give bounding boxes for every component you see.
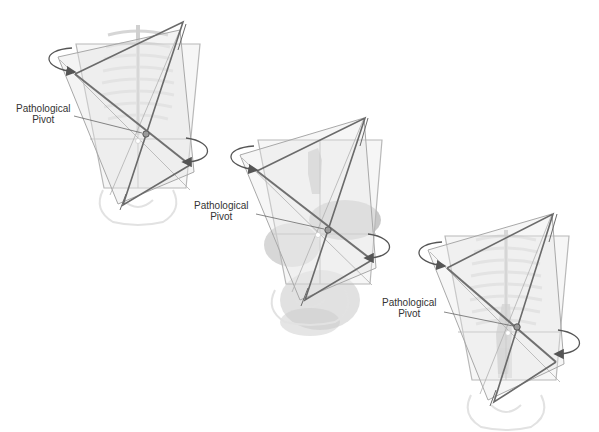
pivot-label-line1: Pathological [382,297,436,308]
pivot-point [325,227,331,233]
figure-3 [419,214,580,430]
pivot-label-line2: Pivot [382,308,436,319]
pivot-point [514,324,520,330]
pivot-label-line2: Pivot [16,114,70,125]
pivot-label-2: Pathological Pivot [194,200,248,222]
pivot-label-line1: Pathological [194,200,248,211]
pivot-label-3: Pathological Pivot [382,297,436,319]
pelvis-anatomy [468,395,545,430]
pivot-origin [315,232,320,237]
pivot-point [143,131,149,137]
pivot-label-line1: Pathological [16,103,70,114]
figure-1 [49,22,208,225]
figure-2 [231,118,390,336]
pivot-origin [136,139,141,144]
pivot-label-1: Pathological Pivot [16,103,70,125]
pivot-label-line2: Pivot [194,211,248,222]
pivot-diagram [0,0,599,432]
pivot-origin [506,331,511,336]
